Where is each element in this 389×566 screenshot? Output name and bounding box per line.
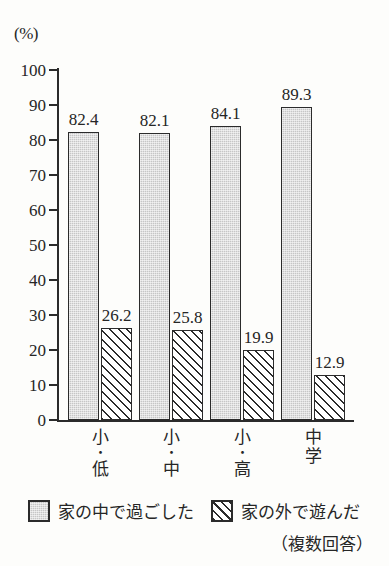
y-axis-tick-label: 100 [2,62,46,79]
bar-value-label: 25.8 [173,309,203,326]
y-axis-unit-label: (%) [14,24,38,44]
x-axis-category-label-line: ・ [141,447,201,459]
y-axis-tick-label: 0 [2,412,46,429]
y-axis-tick-label: 20 [2,342,46,359]
bar-value-label: 84.1 [211,105,241,122]
x-axis-category-label-line: ・ [212,447,272,459]
y-axis-tick [49,419,57,421]
y-axis-tick [49,104,57,106]
y-axis-tick-label: 50 [2,237,46,254]
bar [68,132,99,420]
bar [243,350,274,420]
y-axis-tick [49,244,57,246]
bar [139,133,170,420]
legend-label: 家の外で遊んだ [241,498,360,523]
x-axis-category-label-line: ・ [70,447,130,459]
bar [281,107,312,420]
y-axis-tick-label: 30 [2,307,46,324]
legend-label: 家の中で過ごした [58,498,194,523]
bar-value-label: 12.9 [315,354,345,371]
bar [101,328,132,420]
bar-value-label: 89.3 [282,86,312,103]
bar [314,375,345,420]
x-axis-category-label: 小・中 [141,428,201,479]
bar [210,126,241,420]
x-axis-category-label: 小・高 [212,428,272,479]
y-axis-tick [49,279,57,281]
y-axis-tick-label: 40 [2,272,46,289]
x-axis-category-label-line: 中 [141,460,201,479]
bar-value-label: 82.4 [69,111,99,128]
plot-area [57,70,354,420]
legend-item: 家の中で過ごした [28,498,194,523]
chart-legend: 家の中で過ごした家の外で遊んだ [28,498,373,523]
bar-chart: (%) 1009080706050403020100 82.482.184.18… [0,0,389,566]
legend-swatch [211,500,233,522]
x-axis-category-label: 中学 [283,428,343,467]
x-axis-category-label: 小・低 [70,428,130,479]
y-axis-tick-label: 70 [2,167,46,184]
x-axis-line [57,420,354,422]
y-axis-tick-label: 60 [2,202,46,219]
bar [172,330,203,420]
y-axis-tick [49,174,57,176]
x-axis-category-label-line: 学 [283,447,343,466]
y-axis-tick-label: 80 [2,132,46,149]
y-axis-tick [49,314,57,316]
y-axis-tick [49,209,57,211]
bar-value-label: 26.2 [102,307,132,324]
x-axis-category-label-line: 中 [283,428,343,447]
bar-value-label: 82.1 [140,112,170,129]
y-axis-tick [49,69,57,71]
legend-swatch [28,500,50,522]
x-axis-category-label-line: 低 [70,460,130,479]
bar-value-label: 19.9 [244,329,274,346]
legend-item: 家の外で遊んだ [211,498,360,523]
y-axis-tick [49,384,57,386]
y-axis-tick [49,349,57,351]
x-axis-category-label-line: 高 [212,460,272,479]
y-axis-tick [49,139,57,141]
y-axis-tick-label: 10 [2,377,46,394]
footnote: （複数回答） [271,530,373,555]
y-axis-tick-label: 90 [2,97,46,114]
